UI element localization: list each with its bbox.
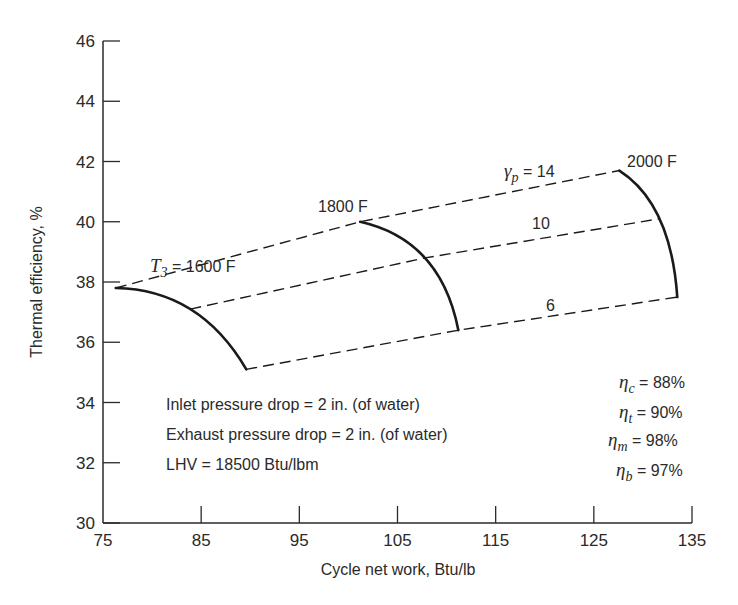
y-tick-label: 34 bbox=[76, 394, 95, 413]
x-tick-label: 135 bbox=[678, 531, 706, 550]
label-rp-10: 10 bbox=[532, 215, 550, 232]
label-rp-6: 6 bbox=[546, 297, 555, 314]
x-tick-label: 95 bbox=[290, 531, 309, 550]
pressure-ratio-line bbox=[246, 297, 677, 369]
temperature-curve bbox=[116, 288, 247, 369]
y-tick-label: 46 bbox=[76, 32, 95, 51]
y-tick-label: 32 bbox=[76, 454, 95, 473]
y-tick-label: 44 bbox=[76, 92, 95, 111]
y-axis-title: Thermal efficiency, % bbox=[28, 206, 45, 357]
label-t3-1600: T3 = 1600 F bbox=[150, 255, 236, 280]
note-exhaust: Exhaust pressure drop = 2 in. (of water) bbox=[166, 426, 447, 443]
eta-t: ηt = 90% bbox=[619, 401, 683, 426]
x-tick-label: 85 bbox=[192, 531, 211, 550]
chart: 303234363840424446 758595105115125135 Cy… bbox=[0, 0, 738, 605]
condition-notes: Inlet pressure drop = 2 in. (of water) E… bbox=[166, 396, 447, 473]
x-ticks: 758595105115125135 bbox=[94, 506, 707, 550]
y-tick-label: 40 bbox=[76, 213, 95, 232]
eta-c: ηc = 88% bbox=[619, 371, 685, 396]
efficiency-notes: ηc = 88% ηt = 90% ηm = 98% ηb = 97% bbox=[608, 371, 685, 484]
note-inlet: Inlet pressure drop = 2 in. (of water) bbox=[166, 396, 420, 413]
temperature-curve bbox=[360, 222, 458, 330]
label-rp-14: γp = 14 bbox=[504, 160, 555, 185]
y-tick-label: 30 bbox=[76, 514, 95, 533]
curve-labels: T3 = 1600 F 1800 F 2000 F γp = 14 10 6 bbox=[150, 153, 677, 314]
eta-b: ηb = 97% bbox=[616, 459, 683, 484]
x-tick-label: 105 bbox=[383, 531, 411, 550]
label-t3-2000: 2000 F bbox=[627, 153, 677, 170]
x-tick-label: 115 bbox=[482, 531, 509, 550]
y-tick-label: 36 bbox=[76, 333, 95, 352]
label-t3-1800: 1800 F bbox=[318, 198, 368, 215]
temperature-curve bbox=[619, 171, 677, 298]
eta-m: ηm = 98% bbox=[608, 429, 678, 454]
x-tick-label: 75 bbox=[94, 531, 113, 550]
x-tick-label: 125 bbox=[580, 531, 608, 550]
x-axis-title: Cycle net work, Btu/lb bbox=[321, 561, 476, 578]
y-tick-label: 42 bbox=[76, 153, 95, 172]
y-tick-label: 38 bbox=[76, 273, 95, 292]
note-lhv: LHV = 18500 Btu/lbm bbox=[166, 456, 319, 473]
pressure-ratio-line bbox=[190, 219, 659, 309]
y-ticks: 303234363840424446 bbox=[76, 32, 120, 533]
